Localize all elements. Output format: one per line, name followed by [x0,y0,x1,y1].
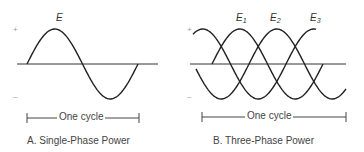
cycle-label-a: One cycle [57,111,105,122]
minus-sign-a: – [13,92,17,101]
caption-a: A. Single-Phase Power [27,135,130,146]
minus-sign-b: – [187,92,191,101]
plus-sign-b: + [187,25,192,34]
plus-sign-a: + [13,25,18,34]
wave-label-e: E [56,12,63,23]
caption-b: B. Three-Phase Power [213,135,314,146]
wave-label-e1: E1 [236,12,247,24]
wave-label-e2: E2 [270,12,281,24]
cycle-label-b: One cycle [245,110,293,121]
wave-label-e3: E3 [310,12,321,24]
